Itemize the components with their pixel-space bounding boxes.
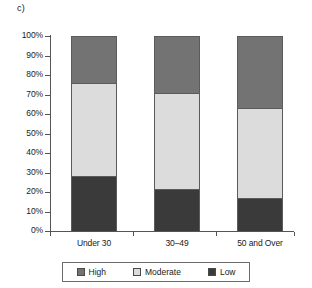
x-axis-line [50,231,294,232]
x-axis-category-label: 50 and Over [215,238,305,248]
plot-area [50,36,298,231]
y-axis-tick-label: 100% [2,31,43,40]
y-axis-tick-label: 30% [2,168,43,177]
y-axis-tick-label: 40% [2,148,43,157]
y-axis-tick-label: 10% [2,207,43,216]
legend-swatch-icon [208,268,216,276]
legend-label: High [89,267,106,277]
chart-legend: HighModerateLow [62,262,250,282]
bar-segment-moderate[interactable] [154,93,200,190]
legend-label: Low [220,267,236,277]
bar-stack[interactable] [154,36,200,231]
x-axis-tick [294,232,295,236]
y-axis-tick-label: 90% [2,51,43,60]
legend-item-moderate[interactable]: Moderate [133,267,181,277]
y-axis-tick-label: 0% [2,226,43,235]
bar-stack[interactable] [71,36,117,231]
x-axis-tick [216,232,217,236]
bar-segment-high[interactable] [154,36,200,93]
y-axis-tick-label: 70% [2,90,43,99]
legend-item-low[interactable]: Low [208,267,236,277]
y-axis-tick-label: 50% [2,129,43,138]
y-axis-tick-label: 60% [2,109,43,118]
panel-label: c) [17,3,25,14]
bar-segment-low[interactable] [71,176,117,231]
bar-segment-high[interactable] [237,36,283,108]
legend-swatch-icon [77,268,85,276]
x-axis-tick [133,232,134,236]
legend-label: Moderate [145,267,181,277]
x-axis-category-label: 30–49 [132,238,222,248]
bar-segment-low[interactable] [154,189,200,231]
legend-swatch-icon [133,268,141,276]
x-axis-category-label: Under 30 [49,238,139,248]
bar-segment-high[interactable] [71,36,117,83]
bar-segment-moderate[interactable] [71,83,117,177]
legend-item-high[interactable]: High [77,267,106,277]
bar-segment-moderate[interactable] [237,108,283,198]
x-axis-tick [50,232,51,236]
bar-stack[interactable] [237,36,283,231]
y-axis-tick-label: 20% [2,187,43,196]
y-axis-tick-label: 80% [2,70,43,79]
bar-segment-low[interactable] [237,198,283,231]
